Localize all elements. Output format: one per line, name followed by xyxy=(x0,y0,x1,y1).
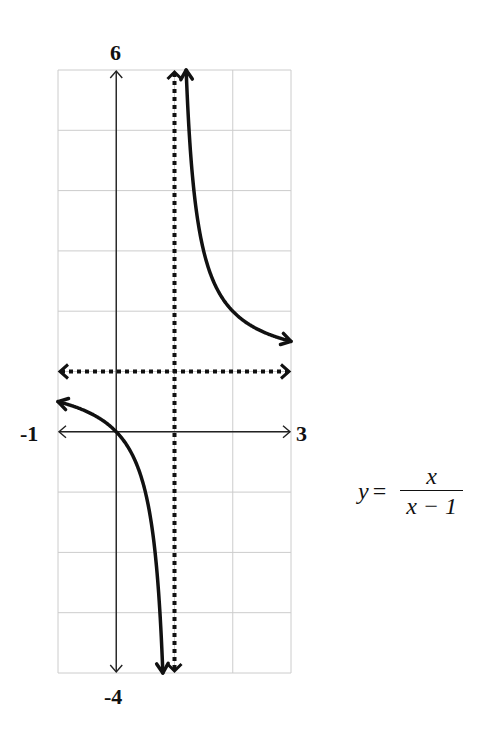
y-min-label: -4 xyxy=(104,684,122,710)
x-max-label: 3 xyxy=(296,421,307,447)
equation-lhs: y xyxy=(358,478,369,505)
graph-plot xyxy=(0,0,504,745)
equation-numerator: x xyxy=(420,462,443,490)
equation-equals: = xyxy=(373,478,387,505)
equation-fraction: x x − 1 xyxy=(400,462,463,521)
left-branch-curve xyxy=(58,402,163,673)
equation-denominator: x − 1 xyxy=(400,490,463,521)
right-branch-curve xyxy=(186,70,291,341)
y-max-label: 6 xyxy=(110,40,121,66)
x-min-label: -1 xyxy=(20,421,38,447)
equation-label: y = x x − 1 xyxy=(358,462,463,521)
